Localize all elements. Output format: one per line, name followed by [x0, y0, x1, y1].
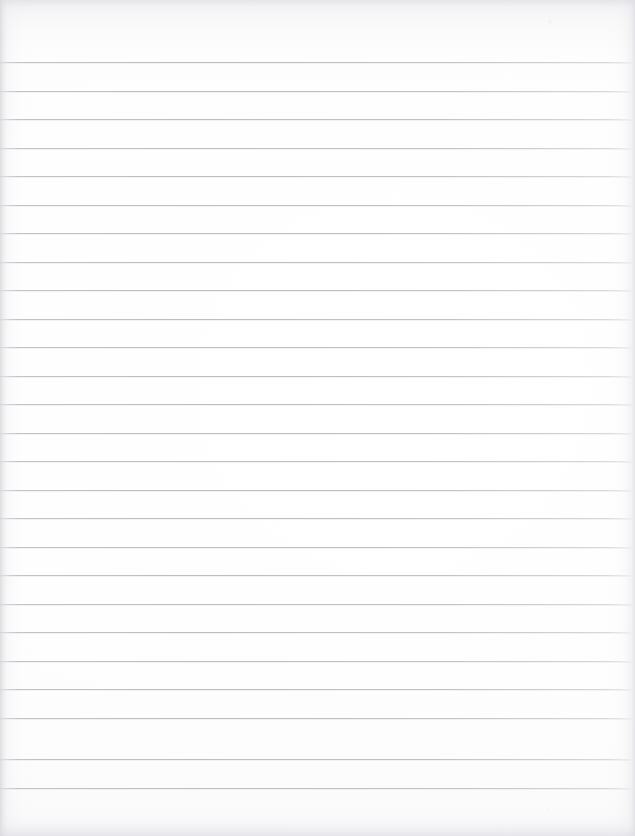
paper-background [0, 0, 635, 836]
scanned-page [0, 0, 635, 836]
